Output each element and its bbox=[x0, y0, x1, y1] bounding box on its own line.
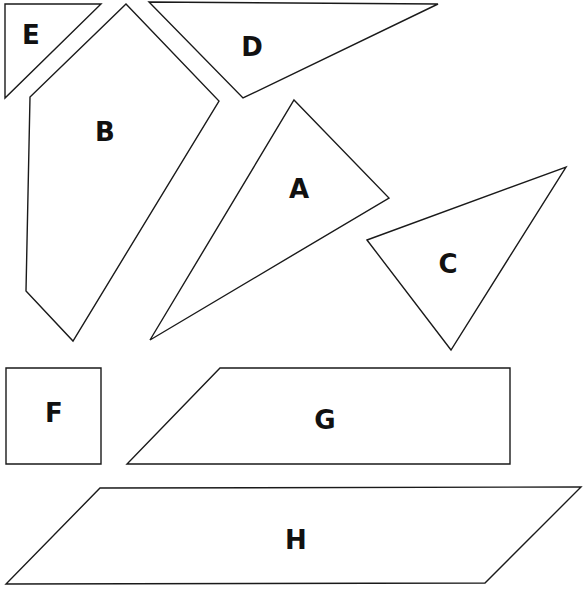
piece-f-label: F bbox=[45, 398, 63, 428]
piece-f: F bbox=[6, 368, 101, 464]
piece-c-polygon bbox=[367, 167, 566, 350]
piece-c: C bbox=[367, 167, 566, 350]
piece-b-label: B bbox=[95, 117, 115, 147]
piece-h: H bbox=[6, 487, 581, 584]
piece-c-label: C bbox=[438, 249, 457, 279]
piece-a-label: A bbox=[289, 174, 309, 204]
piece-g: G bbox=[127, 368, 510, 464]
shapes-diagram: A B C D E F G H bbox=[0, 0, 588, 597]
piece-d-label: D bbox=[241, 32, 263, 62]
piece-h-label: H bbox=[285, 525, 307, 555]
piece-g-label: G bbox=[314, 405, 335, 435]
piece-e-label: E bbox=[22, 20, 40, 50]
